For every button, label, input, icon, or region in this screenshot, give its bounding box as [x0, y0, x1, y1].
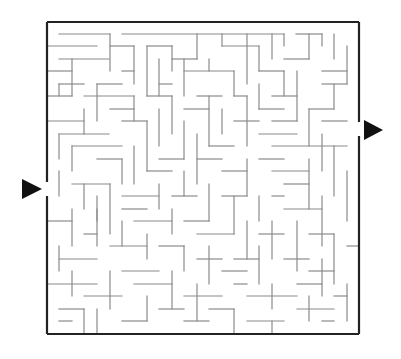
maze-walls: [47, 34, 359, 334]
maze-board: [0, 0, 401, 359]
finish-arrow-icon: [364, 120, 383, 140]
maze-border: [47, 22, 359, 334]
start-arrow-icon: [22, 179, 42, 199]
